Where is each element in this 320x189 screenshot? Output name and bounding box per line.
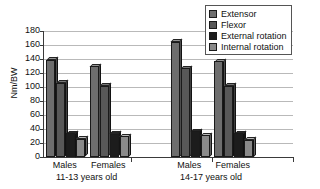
bar-face [66,133,75,157]
bar [110,134,119,157]
y-tick-mark [40,143,44,144]
legend-label: Extensor [221,9,257,19]
x-tick-mark [293,157,294,162]
y-tick-label: 180 [18,26,40,35]
x-category-label: Females [211,160,255,171]
bar-face [224,86,233,157]
x-label-cell: Males14-17 years old [168,160,212,188]
bar-face [181,68,190,157]
y-tick-mark [40,101,44,102]
bar-face [120,136,129,157]
y-tick-label: 160 [18,40,40,49]
y-tick-mark [40,31,44,32]
legend-swatch-icon [209,21,217,29]
bar [171,42,180,158]
bar-group [44,31,88,157]
y-tick-label: 80 [18,96,40,105]
x-label-cell: Females [211,160,255,188]
group-spacer [131,31,168,157]
bar-face [201,135,210,157]
bar-face [100,86,109,157]
bar-face [171,42,180,158]
y-tick-label: 0 [18,152,40,161]
bar [214,61,223,157]
bar-face [234,133,243,157]
bar [201,135,210,157]
y-tick-label: 20 [18,138,40,147]
bar [234,133,243,157]
bar [66,133,75,157]
bar-face [90,66,99,157]
x-category-label: Males [168,160,212,171]
y-tick-label: 40 [18,124,40,133]
bar-chart: Nm/BW 180160140120100806040200 Males11-1… [0,0,320,189]
bar-group [88,31,132,157]
legend-swatch-icon [209,43,217,51]
x-axis-labels: Males11-13 years oldFemalesMales14-17 ye… [43,160,292,188]
bar-face [46,60,55,157]
y-tick-mark [40,73,44,74]
legend-swatch-icon [209,10,217,18]
legend: ExtensorFlexorExternal rotationInternal … [205,5,292,55]
y-tick-label: 100 [18,82,40,91]
bar [100,86,109,157]
y-tick-mark [40,129,44,130]
bar [244,140,253,158]
bar [46,60,55,157]
bar-face [76,139,85,157]
legend-label: Internal rotation [221,42,284,52]
y-tick-mark [40,115,44,116]
y-tick-mark [40,87,44,88]
bar [181,68,190,157]
bar-face [56,83,65,157]
bar-face [191,131,200,157]
bar-face [244,140,253,158]
x-category-label: Males [43,160,87,171]
legend-label: Flexor [221,20,246,30]
legend-item: Internal rotation [209,41,287,52]
bar [76,139,85,157]
bar [56,83,65,157]
legend-swatch-icon [209,32,217,40]
x-label-spacer [130,160,167,188]
y-tick-mark [40,157,44,158]
legend-item: Flexor [209,19,287,30]
legend-item: External rotation [209,30,287,41]
y-tick-mark [40,59,44,60]
bar [224,86,233,157]
y-tick-label: 120 [18,68,40,77]
x-category-label: Females [87,160,131,171]
bar-face [110,134,119,157]
y-axis-tick-labels: 180160140120100806040200 [16,0,40,189]
legend-item: Extensor [209,8,287,19]
x-label-spacer [255,160,292,188]
bar [191,131,200,157]
bar [120,136,129,157]
y-tick-label: 140 [18,54,40,63]
bar [90,66,99,157]
x-label-cell: Males11-13 years old [43,160,87,188]
y-tick-mark [40,45,44,46]
bar-face [214,61,223,157]
y-tick-label: 60 [18,110,40,119]
x-label-cell: Females [87,160,131,188]
legend-label: External rotation [221,31,287,41]
